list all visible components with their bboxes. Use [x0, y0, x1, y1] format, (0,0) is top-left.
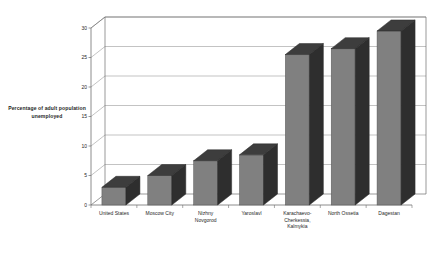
bar-5[interactable]: [285, 44, 323, 205]
bar-3[interactable]: [194, 150, 232, 205]
y-tick-label: 10: [71, 144, 87, 149]
bar-front-face: [194, 161, 218, 205]
gridline-depth: [91, 76, 105, 87]
gridline-depth: [91, 165, 105, 176]
top-left-depth-line: [91, 17, 105, 28]
gridline-depth: [91, 135, 105, 146]
bar-1[interactable]: [102, 176, 140, 205]
bars-group: [102, 20, 415, 205]
y-tick-label: 15: [71, 114, 87, 119]
bar-front-face: [331, 49, 355, 205]
x-tick-label: Dagestan: [362, 210, 416, 217]
bar-4[interactable]: [240, 144, 278, 205]
bar-front-face: [102, 187, 126, 205]
gridline-depth: [91, 47, 105, 58]
bar-2[interactable]: [148, 165, 186, 206]
bar-side-face: [309, 44, 323, 205]
y-tick-label: 0: [71, 203, 87, 208]
y-tick-label: 5: [71, 173, 87, 178]
bar-7[interactable]: [377, 20, 415, 205]
bar-side-face: [355, 38, 369, 205]
y-tick-label: 20: [71, 85, 87, 90]
gridline-depth: [91, 106, 105, 117]
bar-front-face: [285, 55, 309, 205]
bar-front-face: [148, 176, 172, 206]
y-tick-label: 25: [71, 55, 87, 60]
y-tick-label: 30: [71, 26, 87, 31]
bar-side-face: [401, 20, 415, 205]
bar-front-face: [377, 31, 401, 205]
bar-6[interactable]: [331, 38, 369, 205]
chart-container: Percentage of adult population unemploye…: [0, 0, 439, 260]
bar-front-face: [240, 155, 264, 205]
bar-side-face: [264, 144, 278, 205]
